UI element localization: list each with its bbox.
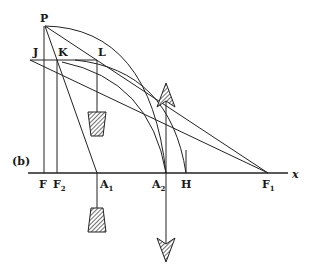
optics-diagram: P J K L (b) F F2 A1 A2 H F1 x <box>0 0 316 272</box>
panel-label: (b) <box>12 155 30 168</box>
label-h: H <box>181 178 191 191</box>
ray-p-a1 <box>45 26 97 173</box>
label-f1: F1 <box>262 178 275 193</box>
label-f2: F2 <box>53 178 66 193</box>
label-p: P <box>40 12 48 25</box>
label-k: K <box>58 46 68 59</box>
object-upper-shape <box>88 112 106 136</box>
label-a2: A2 <box>151 178 166 193</box>
ray-j-f1 <box>30 60 268 173</box>
axis-label-x: x <box>291 168 299 181</box>
label-f: F <box>39 178 47 191</box>
object-lower-shape <box>88 208 106 232</box>
diagram-canvas: P J K L (b) F F2 A1 A2 H F1 x <box>0 0 316 272</box>
label-j: J <box>32 46 38 59</box>
label-l: L <box>98 46 106 59</box>
label-a1: A1 <box>99 178 114 193</box>
